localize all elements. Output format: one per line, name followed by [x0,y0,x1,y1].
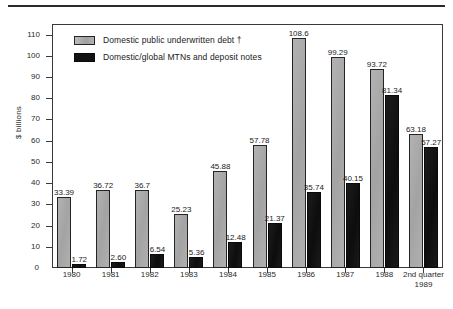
y-axis-tick-label: 30 [31,199,40,208]
bar[interactable]: 33.39 [57,197,71,268]
y-axis-title: $ billions [14,83,23,163]
bar-group: 63.1857.27 [404,24,443,268]
bar[interactable]: 99.29 [331,57,345,268]
bar[interactable]: 57.27 [424,147,438,269]
y-axis-tick-label: 40 [31,178,40,187]
y-axis-tick-label: 70 [31,114,40,123]
bar[interactable]: 5.36 [189,257,203,268]
bar[interactable]: 25.23 [174,214,188,268]
bar[interactable]: 35.74 [307,192,321,268]
bar-value-label: 63.18 [406,125,426,134]
legend-item-label: Domestic public underwritten debt † [103,35,242,45]
bar-group: 99.2940.15 [326,24,365,268]
bar-value-label: 5.36 [189,248,205,257]
bar[interactable]: 81.34 [385,95,399,268]
legend-swatch [74,36,95,45]
y-axis-tick-label: 20 [31,221,40,230]
x-axis-tick-label-line: 1989 [393,280,453,290]
bar-value-label: 35.74 [304,183,324,192]
y-axis-tick-label: 10 [31,242,40,251]
bar[interactable]: 63.18 [409,134,423,268]
top-divider-rule [8,5,445,7]
bar[interactable]: 40.15 [346,183,360,268]
bar-value-label: 2.60 [111,253,127,262]
bar-value-label: 93.72 [367,60,387,69]
bar-value-label: 36.72 [93,181,113,190]
y-axis-tick-label: 90 [31,72,40,81]
bar[interactable]: 108.6 [292,38,306,268]
y-axis-tick-label: 50 [31,157,40,166]
x-axis-tick-label-line: 2nd quarter [393,270,453,280]
bar[interactable]: 12.48 [228,242,242,268]
chart-legend: Domestic public underwritten debt †Domes… [74,33,304,67]
bar-value-label: 99.29 [328,48,348,57]
legend-item: Domestic public underwritten debt † [74,33,304,47]
bar-value-label: 12.48 [226,233,246,242]
legend-item: Domestic/global MTNs and deposit notes [74,50,304,64]
bar[interactable]: 57.78 [253,145,267,268]
y-axis-tick-label: 80 [31,93,40,102]
bar-value-label: 21.37 [265,214,285,223]
bar-value-label: 33.39 [54,188,74,197]
bar[interactable]: 36.7 [135,190,149,268]
bar[interactable]: 6.54 [150,254,164,268]
legend-item-label: Domestic/global MTNs and deposit notes [103,52,262,62]
bar-value-label: 45.88 [210,162,230,171]
bar-value-label: 25.23 [171,205,191,214]
bar[interactable]: 1.72 [72,264,86,268]
bar[interactable]: 2.60 [111,262,125,268]
legend-swatch [74,53,95,62]
bar-value-label: 6.54 [150,245,166,254]
bar[interactable]: 93.72 [370,69,384,268]
bar-value-label: 57.78 [250,136,270,145]
bar[interactable]: 36.72 [96,190,110,268]
x-axis-ticks: 1980198119821983198419851986198719882nd … [52,270,443,308]
y-axis-tick-label: 110 [27,30,40,39]
y-axis-tick-label: 0 [35,263,39,272]
bar-group: 93.7281.34 [365,24,404,268]
bar-value-label: 1.72 [71,255,87,264]
bar[interactable]: 21.37 [268,223,282,268]
y-axis-tick-label: 100 [27,51,40,60]
x-axis-tick-label: 2nd quarter1989 [393,270,453,290]
bar-value-label: 57.27 [421,138,441,147]
bar-value-label: 36.7 [134,181,150,190]
bar[interactable]: 45.88 [213,171,227,268]
bar-value-label: 40.15 [343,174,363,183]
bar-value-label: 81.34 [382,86,402,95]
y-axis-tick-label: 60 [31,136,40,145]
